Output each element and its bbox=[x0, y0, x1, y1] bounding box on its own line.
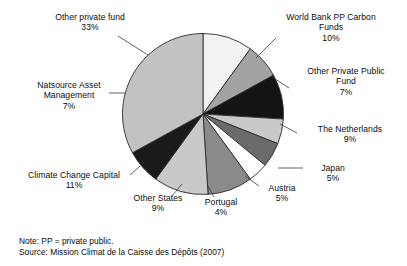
pie-label-percent: 11% bbox=[12, 180, 136, 190]
pie-label-percent: 7% bbox=[16, 101, 122, 111]
pie-label-percent: 5% bbox=[252, 193, 312, 203]
pie-label-name: Other private fund bbox=[28, 12, 152, 22]
pie-label-percent: 10% bbox=[266, 33, 396, 43]
pie-label-percent: 9% bbox=[120, 203, 196, 213]
pie-chart bbox=[122, 33, 284, 195]
pie-label-percent: 4% bbox=[190, 207, 252, 217]
pie-label-name: Portugal bbox=[190, 197, 252, 207]
footnote-source: Source: Mission Climat de la Caisse des … bbox=[19, 247, 389, 258]
pie-label-name-line2: Funds bbox=[266, 22, 396, 32]
pie-label-japan: Japan 5% bbox=[306, 163, 360, 184]
pie-label-name: Austria bbox=[252, 183, 312, 193]
pie-slice-group bbox=[123, 34, 284, 195]
pie-label-other-private-public-fund: Other Private Public Fund 7% bbox=[292, 66, 400, 97]
pie-label-percent: 5% bbox=[306, 173, 360, 183]
pie-label-name: Other States bbox=[120, 193, 196, 203]
pie-label-percent: 9% bbox=[300, 134, 400, 144]
pie-label-name: Climate Change Capital bbox=[12, 170, 136, 180]
pie-label-name-line2: Fund bbox=[292, 76, 400, 86]
pie-label-other-private-fund: Other private fund 33% bbox=[28, 12, 152, 33]
pie-label-other-states: Other States 9% bbox=[120, 193, 196, 214]
pie-label-name: Japan bbox=[306, 163, 360, 173]
pie-label-the-netherlands: The Netherlands 9% bbox=[300, 124, 400, 145]
footnote-note: Note: PP = private public. bbox=[19, 236, 389, 247]
pie-label-percent: 33% bbox=[28, 22, 152, 32]
pie-label-percent: 7% bbox=[292, 87, 400, 97]
pie-chart-figure: Other private fund 33% World Bank PP Car… bbox=[0, 0, 407, 266]
pie-label-name: World Bank PP Carbon bbox=[266, 12, 396, 22]
pie-label-austria: Austria 5% bbox=[252, 183, 312, 204]
pie-label-name: Other Private Public bbox=[292, 66, 400, 76]
footnotes: Note: PP = private public. Source: Missi… bbox=[19, 236, 389, 259]
pie-label-name: The Netherlands bbox=[300, 124, 400, 134]
pie-label-natsource-asset-management: Natsource Asset Management 7% bbox=[16, 80, 122, 111]
pie-svg bbox=[122, 33, 284, 195]
pie-label-portugal: Portugal 4% bbox=[190, 197, 252, 218]
pie-label-climate-change-capital: Climate Change Capital 11% bbox=[12, 170, 136, 191]
pie-label-world-bank-pp-carbon-funds: World Bank PP Carbon Funds 10% bbox=[266, 12, 396, 43]
pie-label-name: Natsource Asset bbox=[16, 80, 122, 90]
pie-label-name-line2: Management bbox=[16, 90, 122, 100]
